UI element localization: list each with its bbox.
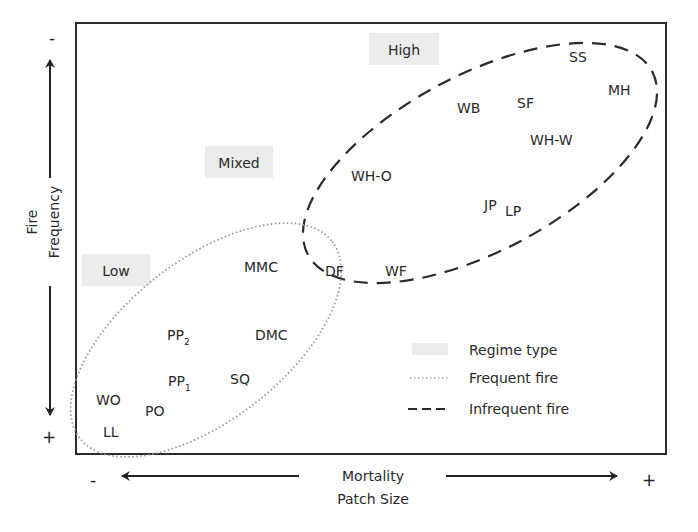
species-wf: WF — [385, 263, 407, 279]
y-axis-label-line2: Frequency — [46, 186, 62, 258]
x-axis: - Mortality Patch Size + — [90, 468, 656, 507]
species-wh-w: WH-W — [530, 132, 573, 148]
regime-mixed: Mixed — [205, 146, 273, 178]
legend-frequent-fire: Frequent fire — [469, 370, 558, 386]
species-wh-o: WH-O — [351, 168, 392, 184]
y-axis-top-sign: - — [49, 28, 55, 48]
fire-regime-diagram: High Mixed Low SS MH WB SF WH-W WH-O JP … — [0, 0, 698, 532]
species-po: PO — [145, 403, 164, 419]
species-pp1: PP1 — [168, 373, 191, 393]
x-axis-high-sign: + — [642, 470, 656, 490]
species-df: DF — [325, 263, 344, 279]
species-lp: LP — [505, 203, 521, 219]
species-sq: SQ — [230, 371, 250, 387]
species-wb: WB — [457, 100, 480, 116]
y-axis: - Fire Frequency + — [24, 28, 62, 447]
plot-frame — [76, 23, 666, 454]
species-wo: WO — [96, 392, 121, 408]
regime-low-label: Low — [102, 263, 130, 279]
species-sf: SF — [517, 95, 534, 111]
species-mmc: MMC — [244, 259, 278, 275]
regime-mixed-label: Mixed — [218, 155, 259, 171]
regime-high-label: High — [388, 42, 420, 58]
species-ll: LL — [103, 424, 119, 440]
regime-low: Low — [82, 254, 150, 286]
legend-regime-type: Regime type — [469, 342, 557, 358]
species-ss: SS — [569, 49, 587, 65]
y-axis-bottom-sign: + — [42, 427, 56, 447]
y-axis-label-line1: Fire — [24, 210, 40, 235]
x-axis-label-line1: Mortality — [342, 468, 404, 484]
legend: Regime type Frequent fire Infrequent fir… — [408, 342, 569, 417]
species-jp: JP — [483, 197, 497, 213]
x-axis-low-sign: - — [90, 470, 96, 490]
infrequent-fire-ellipse — [267, 0, 694, 332]
legend-infrequent-fire: Infrequent fire — [469, 401, 569, 417]
species-dmc: DMC — [255, 327, 288, 343]
regime-high: High — [369, 33, 439, 65]
species-mh: MH — [608, 82, 631, 98]
legend-regime-swatch — [412, 343, 448, 355]
species-pp2: PP2 — [167, 327, 190, 347]
x-axis-label-line2: Patch Size — [337, 491, 409, 507]
